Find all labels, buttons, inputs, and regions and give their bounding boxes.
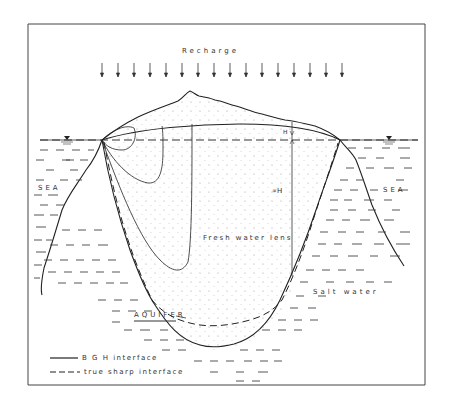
legend-true-sharp-interface: true sharp interface — [84, 368, 184, 376]
legend-bgh-interface: B G H interface — [82, 354, 158, 362]
recharge-arrows — [101, 63, 344, 77]
sea-label-right: SEA — [383, 186, 406, 194]
recharge-label: Recharge — [182, 47, 239, 55]
h-label: H — [283, 128, 288, 135]
fresh-water-lens-label: Fresh water lens — [203, 234, 292, 242]
freshwater-lens-diagram — [0, 0, 449, 414]
aquifer-label: AQUIFER — [134, 311, 186, 319]
sea-label-left: SEA — [38, 184, 61, 192]
sea-water-hatching-left — [34, 150, 94, 278]
salt-water-label: Salt water — [313, 288, 379, 296]
alpha-h-label: ∝H — [272, 187, 282, 195]
right-coast-slope — [340, 140, 404, 266]
